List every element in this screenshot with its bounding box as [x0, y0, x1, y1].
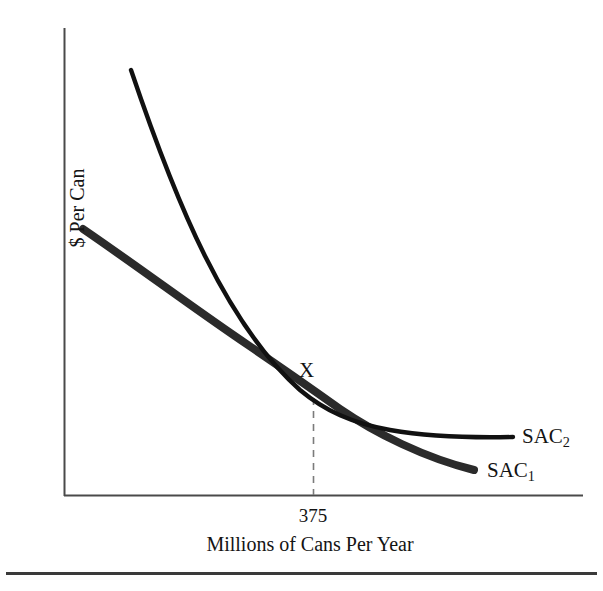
- x-axis-tick-label-375: 375: [273, 505, 353, 527]
- curve-sac2: [131, 70, 513, 437]
- series-label-sac2-subscript: 2: [563, 434, 570, 450]
- series-label-sac2-text: SAC: [522, 424, 563, 448]
- y-axis-title: $ Per Can: [64, 143, 90, 273]
- intersection-point-label: X: [299, 358, 314, 383]
- cost-curve-figure: $ Per Can Millions of Cans Per Year 375 …: [0, 0, 603, 591]
- x-axis-title: Millions of Cans Per Year: [140, 533, 480, 556]
- series-label-sac1-text: SAC: [487, 458, 528, 482]
- series-label-sac1-subscript: 1: [528, 468, 535, 484]
- series-label-sac2: SAC2: [522, 424, 570, 451]
- chart-canvas: [0, 0, 603, 591]
- series-label-sac1: SAC1: [487, 458, 535, 485]
